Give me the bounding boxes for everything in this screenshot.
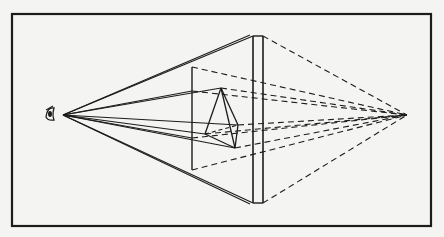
- projector-line: [263, 36, 407, 115]
- visual-ray: [63, 91, 192, 115]
- perspective-diagram: [0, 0, 444, 237]
- pyramid-edge: [221, 88, 235, 148]
- eye-icon: [46, 106, 54, 120]
- pyramid-edge: [235, 125, 238, 148]
- eye-pupil: [48, 111, 52, 117]
- visual-rays: [63, 35, 253, 204]
- pyramid-hidden-edge: [205, 125, 238, 134]
- pyramid-edge: [221, 88, 238, 125]
- pyramid-edge: [205, 134, 235, 148]
- picture-plane: [192, 36, 263, 203]
- visual-ray: [63, 35, 250, 115]
- pyramid-edge: [205, 88, 221, 134]
- projector-line: [192, 67, 407, 115]
- visual-ray: [63, 115, 250, 204]
- projector-lines: [192, 36, 407, 203]
- pyramid-object: [205, 88, 238, 148]
- projector-line: [221, 88, 407, 115]
